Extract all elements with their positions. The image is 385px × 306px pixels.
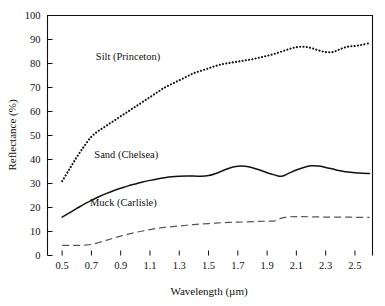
y-tick-label: 100 [25,10,41,21]
x-tick-label: 1.1 [143,260,156,271]
x-tick-label: 2.1 [290,260,303,271]
y-tick-label: 0 [35,250,40,261]
x-tick-label: 2.3 [319,260,332,271]
x-tick-label: 1.5 [202,260,215,271]
y-tick-label: 40 [30,154,41,165]
y-tick-label: 90 [30,34,41,45]
y-tick-label: 80 [30,58,41,69]
x-tick-label: 1.7 [231,260,244,271]
y-tick-label: 10 [30,226,41,237]
x-tick-label: 0.7 [85,260,98,271]
y-tick-label: 70 [30,82,41,93]
chart-canvas: 0102030405060708090100 0.50.70.91.11.31.… [0,0,385,306]
x-tick-label: 0.9 [114,260,127,271]
x-tick-label: 0.5 [56,260,69,271]
series-annotation-2: Muck (Carlisle) [90,197,157,209]
x-tick-label: 1.3 [173,260,186,271]
series-annotation-0: Silt (Princeton) [96,51,161,63]
x-tick-label: 2.5 [348,260,361,271]
x-tick-label: 1.9 [261,260,274,271]
y-tick-label: 60 [30,106,41,117]
y-axis-title: Reflectance (%) [6,99,19,170]
x-axis-title: Wavelength (µm) [170,285,248,298]
y-tick-label: 50 [30,130,41,141]
y-tick-label: 20 [30,202,41,213]
y-tick-label: 30 [30,178,41,189]
series-annotation-1: Sand (Chelsea) [94,149,158,161]
reflectance-spectral-chart: 0102030405060708090100 0.50.70.91.11.31.… [0,0,385,306]
